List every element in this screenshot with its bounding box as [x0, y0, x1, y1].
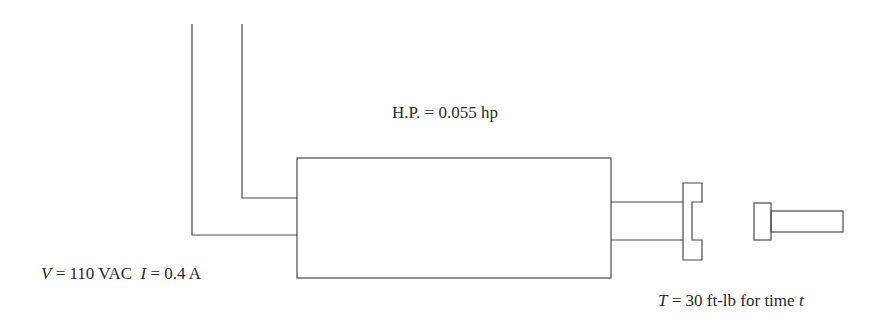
torque-value: = 30 ft-lb for time	[667, 291, 798, 310]
coupling-flange	[683, 183, 702, 260]
load-shaft	[771, 211, 843, 232]
power-lead-inner	[242, 24, 297, 198]
load-head	[754, 203, 771, 240]
horsepower-label: H.P. = 0.055 hp	[392, 103, 498, 123]
power-lead-outer	[192, 24, 297, 235]
motor-body	[297, 158, 611, 278]
current-value: = 0.4 A	[146, 264, 201, 283]
voltage-value: = 110 VAC	[51, 264, 132, 283]
voltage-symbol: V	[41, 264, 51, 283]
torque-label: T = 30 ft-lb for time t	[658, 291, 804, 311]
voltage-current-label: V = 110 VAC I = 0.4 A	[41, 264, 201, 284]
time-symbol: t	[799, 291, 804, 310]
